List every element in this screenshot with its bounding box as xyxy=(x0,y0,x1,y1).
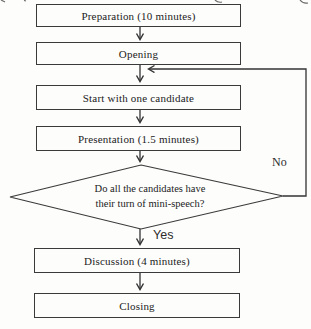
node-opening-label: Opening xyxy=(119,48,158,60)
scan-artifact-top-text-remnants xyxy=(1,0,308,3)
node-discussion-label: Discussion (4 minutes) xyxy=(84,255,190,267)
edge-label-no: No xyxy=(272,155,287,170)
node-start-label: Start with one candidate xyxy=(83,92,194,104)
node-decision-label-line1: Do all the candidates have xyxy=(55,181,245,196)
node-decision: Do all the candidates have their turn of… xyxy=(55,181,245,211)
node-discussion: Discussion (4 minutes) xyxy=(34,248,240,273)
edge-label-yes: Yes xyxy=(153,228,173,242)
node-presentation-label: Presentation (1.5 minutes) xyxy=(78,133,199,145)
node-presentation: Presentation (1.5 minutes) xyxy=(36,126,241,151)
node-start-with-one-candidate: Start with one candidate xyxy=(36,85,241,110)
flowchart-figure: Preparation (10 minutes) Opening Start w… xyxy=(0,0,311,329)
node-decision-label-line2: their turn of mini-speech? xyxy=(55,196,245,211)
node-closing: Closing xyxy=(34,293,240,318)
node-preparation-label: Preparation (10 minutes) xyxy=(81,10,195,22)
node-opening: Opening xyxy=(36,42,241,65)
node-preparation: Preparation (10 minutes) xyxy=(36,4,241,27)
node-closing-label: Closing xyxy=(119,300,155,312)
